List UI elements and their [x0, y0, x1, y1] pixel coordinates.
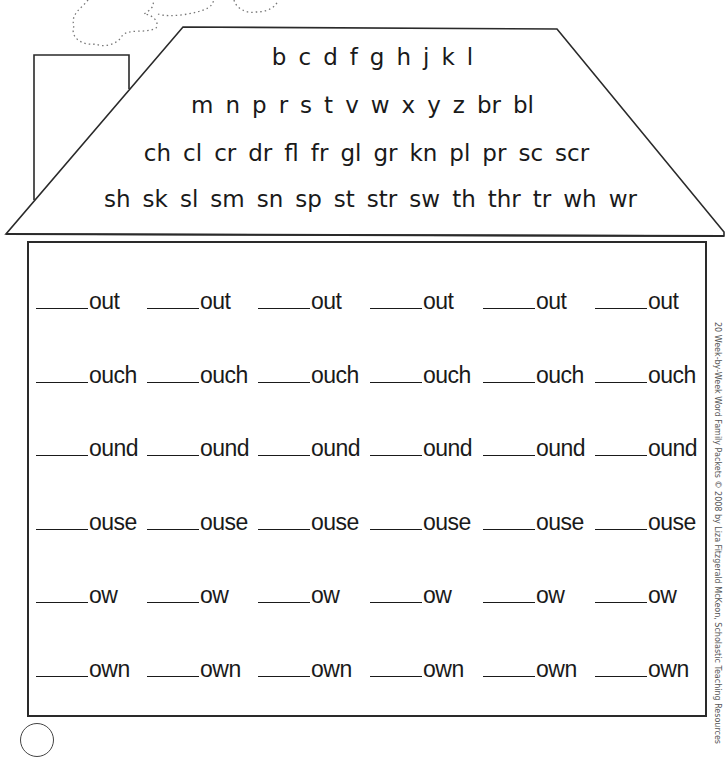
- write-blank[interactable]: [258, 360, 310, 383]
- onset: sw: [409, 186, 440, 212]
- blank-word[interactable]: ouse: [147, 507, 248, 536]
- write-blank[interactable]: [147, 580, 199, 603]
- onset: sh: [104, 186, 131, 212]
- onset: l: [467, 44, 473, 70]
- write-blank[interactable]: [483, 286, 535, 309]
- write-blank[interactable]: [36, 360, 88, 383]
- onset: gl: [340, 140, 361, 166]
- write-blank[interactable]: [370, 654, 422, 677]
- blank-word[interactable]: ow: [36, 580, 117, 609]
- blank-word[interactable]: out: [595, 286, 678, 315]
- onset: cr: [214, 140, 236, 166]
- write-blank[interactable]: [370, 433, 422, 456]
- smoke-cloud-icon: [73, 0, 157, 46]
- onset: r: [279, 92, 288, 118]
- write-blank[interactable]: [483, 433, 535, 456]
- write-blank[interactable]: [36, 507, 88, 530]
- write-blank[interactable]: [36, 433, 88, 456]
- write-blank[interactable]: [483, 507, 535, 530]
- onset: m: [191, 92, 213, 118]
- blank-word[interactable]: ouch: [370, 360, 471, 389]
- blank-word[interactable]: ouse: [595, 507, 696, 536]
- blank-word[interactable]: ouch: [36, 360, 137, 389]
- write-blank[interactable]: [595, 286, 647, 309]
- blank-word[interactable]: ound: [147, 433, 249, 462]
- word-family-row-ouch: ouch ouch ouch ouch ouch ouch: [36, 360, 706, 396]
- blank-word[interactable]: ouch: [483, 360, 584, 389]
- write-blank[interactable]: [36, 580, 88, 603]
- write-blank[interactable]: [370, 286, 422, 309]
- blank-word[interactable]: out: [147, 286, 230, 315]
- write-blank[interactable]: [595, 654, 647, 677]
- blank-word[interactable]: ouse: [370, 507, 471, 536]
- blank-word[interactable]: ouch: [595, 360, 696, 389]
- onset: sl: [180, 186, 198, 212]
- write-blank[interactable]: [258, 286, 310, 309]
- onset: sc: [518, 140, 543, 166]
- write-blank[interactable]: [370, 360, 422, 383]
- blank-word[interactable]: out: [483, 286, 566, 315]
- write-blank[interactable]: [147, 507, 199, 530]
- roof-row-1: bcdfghjkl: [0, 44, 725, 70]
- blank-word[interactable]: ow: [147, 580, 228, 609]
- onset: cl: [183, 140, 202, 166]
- blank-word[interactable]: ouch: [258, 360, 359, 389]
- onset: wh: [563, 186, 596, 212]
- write-blank[interactable]: [147, 433, 199, 456]
- write-blank[interactable]: [147, 360, 199, 383]
- blank-word[interactable]: out: [258, 286, 341, 315]
- blank-word[interactable]: out: [36, 286, 119, 315]
- blank-word[interactable]: own: [483, 654, 577, 683]
- write-blank[interactable]: [147, 654, 199, 677]
- blank-word[interactable]: ow: [483, 580, 564, 609]
- onset: st: [334, 186, 355, 212]
- write-blank[interactable]: [258, 580, 310, 603]
- blank-word[interactable]: ow: [370, 580, 451, 609]
- blank-word[interactable]: ound: [595, 433, 697, 462]
- blank-word[interactable]: out: [370, 286, 453, 315]
- write-blank[interactable]: [36, 286, 88, 309]
- copyright-credit: 20 Week-by-Week Word Family Packets © 20…: [713, 322, 722, 742]
- blank-word[interactable]: ouse: [258, 507, 359, 536]
- onset: sn: [257, 186, 284, 212]
- blank-word[interactable]: own: [147, 654, 241, 683]
- write-blank[interactable]: [370, 507, 422, 530]
- onset: k: [441, 44, 454, 70]
- write-blank[interactable]: [595, 360, 647, 383]
- onset: s: [300, 92, 312, 118]
- onset: g: [370, 44, 385, 70]
- write-blank[interactable]: [147, 286, 199, 309]
- onset: w: [371, 92, 390, 118]
- blank-word[interactable]: ound: [370, 433, 472, 462]
- write-blank[interactable]: [483, 654, 535, 677]
- blank-word[interactable]: ouch: [147, 360, 248, 389]
- write-blank[interactable]: [483, 580, 535, 603]
- word-family-row-own: own own own own own own: [36, 654, 706, 690]
- onset: sm: [210, 186, 244, 212]
- blank-word[interactable]: ound: [483, 433, 585, 462]
- write-blank[interactable]: [258, 433, 310, 456]
- blank-word[interactable]: ouse: [36, 507, 137, 536]
- blank-word[interactable]: ow: [258, 580, 339, 609]
- write-blank[interactable]: [595, 433, 647, 456]
- blank-word[interactable]: ouse: [483, 507, 584, 536]
- write-blank[interactable]: [258, 507, 310, 530]
- write-blank[interactable]: [36, 654, 88, 677]
- write-blank[interactable]: [483, 360, 535, 383]
- onset: h: [396, 44, 411, 70]
- blank-word[interactable]: ound: [36, 433, 138, 462]
- blank-word[interactable]: own: [370, 654, 464, 683]
- chimney: [34, 55, 129, 200]
- blank-word[interactable]: own: [595, 654, 689, 683]
- write-blank[interactable]: [595, 507, 647, 530]
- blank-word[interactable]: own: [36, 654, 130, 683]
- blank-word[interactable]: ow: [595, 580, 676, 609]
- write-blank[interactable]: [258, 654, 310, 677]
- blank-word[interactable]: ound: [258, 433, 360, 462]
- write-blank[interactable]: [595, 580, 647, 603]
- blank-word[interactable]: own: [258, 654, 352, 683]
- write-blank[interactable]: [370, 580, 422, 603]
- onset: th: [452, 186, 476, 212]
- onset: dr: [248, 140, 272, 166]
- word-family-row-ouse: ouse ouse ouse ouse ouse ouse: [36, 507, 706, 543]
